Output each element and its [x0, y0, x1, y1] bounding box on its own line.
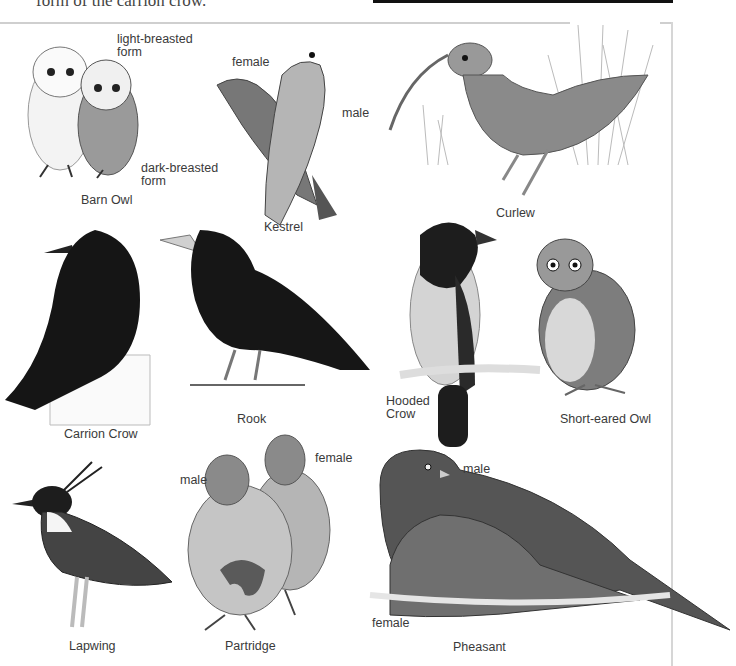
pheasant-illustration	[370, 445, 736, 620]
note-kestrel-male: male	[342, 107, 369, 120]
continued-body-text: form of the carrion crow.	[36, 0, 206, 11]
label-partridge: Partridge	[225, 640, 276, 653]
note-partridge-male: male	[180, 474, 207, 487]
short-eared-owl-illustration	[525, 235, 665, 395]
label-hooded-crow: Hooded Crow	[386, 395, 430, 421]
lapwing-illustration	[12, 452, 172, 632]
label-barn-owl: Barn Owl	[81, 194, 132, 207]
note-pheasant-female: female	[372, 617, 410, 630]
note-kestrel-female: female	[232, 56, 270, 69]
black-rule	[373, 0, 673, 3]
label-lapwing: Lapwing	[69, 640, 116, 653]
note-pheasant-male: male	[463, 463, 490, 476]
label-rook: Rook	[237, 413, 266, 426]
note-dark-breasted: dark-breasted form	[141, 162, 218, 188]
partridge-illustration	[185, 430, 335, 630]
label-carrion-crow: Carrion Crow	[64, 428, 138, 441]
label-pheasant: Pheasant	[453, 641, 506, 654]
note-light-breasted: light-breasted form	[117, 33, 193, 59]
rook-illustration	[160, 225, 380, 395]
curlew-illustration	[388, 15, 668, 205]
carrion-crow-illustration	[0, 225, 160, 425]
label-curlew: Curlew	[496, 207, 535, 220]
label-short-eared-owl: Short-eared Owl	[560, 413, 651, 426]
note-partridge-female: female	[315, 452, 353, 465]
